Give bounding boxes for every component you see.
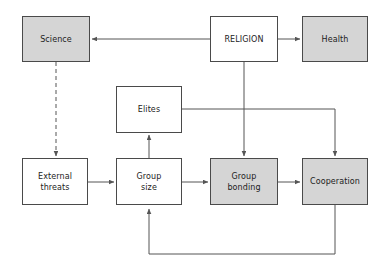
node-elites[interactable]: Elites xyxy=(116,86,182,133)
edge-elites-to-cooperation xyxy=(182,109,335,156)
node-external-threats-label: External threats xyxy=(36,171,74,193)
node-external-threats[interactable]: External threats xyxy=(22,158,88,205)
node-elites-label: Elites xyxy=(136,104,162,115)
node-cooperation[interactable]: Cooperation xyxy=(302,158,368,205)
node-group-size[interactable]: Group size xyxy=(116,158,182,205)
node-health[interactable]: Health xyxy=(302,16,368,62)
node-science[interactable]: Science xyxy=(22,16,90,62)
node-religion[interactable]: RELIGION xyxy=(210,16,278,62)
node-health-label: Health xyxy=(320,34,351,45)
node-science-label: Science xyxy=(38,34,74,45)
node-cooperation-label: Cooperation xyxy=(308,176,362,187)
diagram-canvas: Science RELIGION Health Elites External … xyxy=(0,0,388,275)
node-religion-label: RELIGION xyxy=(222,34,265,45)
node-group-size-label: Group size xyxy=(135,171,164,193)
node-group-bonding-label: Group bonding xyxy=(225,171,262,193)
node-group-bonding[interactable]: Group bonding xyxy=(210,158,278,205)
edge-cooperation-to-group-size-feedback xyxy=(149,205,335,254)
